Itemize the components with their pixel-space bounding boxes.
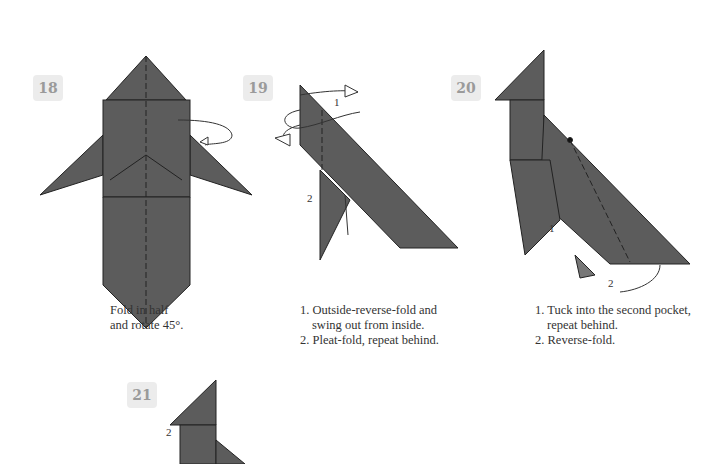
step-19-label-1: 1	[334, 96, 340, 108]
step-20-label-2: 2	[608, 277, 614, 289]
origami-diagrams	[0, 0, 728, 464]
step-18-diagram	[40, 56, 252, 328]
step-19-diagram	[275, 85, 458, 260]
step-19-label-2: 2	[307, 192, 313, 204]
step-19-caption: 1. Outside-reverse-fold and swing out fr…	[300, 303, 460, 348]
step-21-diagram	[170, 380, 245, 464]
step-20-caption: 1. Tuck into the second pocket, repeat b…	[535, 303, 695, 348]
step-20-label-1: 1	[549, 222, 555, 234]
step-21-label-2: 2	[166, 426, 172, 438]
step-20-diagram	[495, 50, 690, 292]
step-18-caption: Fold in half and rotate 45°.	[110, 303, 183, 333]
